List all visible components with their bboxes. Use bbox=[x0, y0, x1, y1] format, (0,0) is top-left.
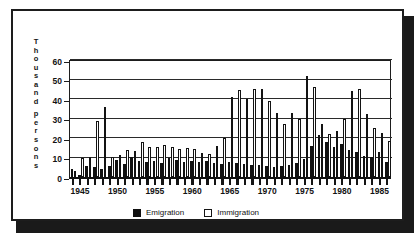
bar-immigration bbox=[373, 128, 376, 177]
bar-immigration bbox=[111, 157, 114, 177]
bar-immigration bbox=[74, 171, 77, 177]
bar-immigration bbox=[89, 157, 92, 177]
y-axis-tick-mark bbox=[64, 62, 69, 63]
x-axis-tick-mark bbox=[161, 179, 163, 185]
y-axis-tick-label: 30 bbox=[40, 115, 62, 125]
bar-immigration bbox=[171, 147, 174, 177]
bar-immigration bbox=[238, 90, 241, 177]
x-axis-tick-mark bbox=[349, 179, 351, 185]
bar-immigration bbox=[216, 146, 219, 177]
x-axis-tick-mark bbox=[214, 179, 216, 185]
y-axis-tick-mark bbox=[64, 81, 69, 82]
x-axis-tick-mark bbox=[102, 179, 104, 185]
y-axis-tick-label: 60 bbox=[40, 57, 62, 67]
bar-immigration bbox=[163, 145, 166, 177]
legend-item: Immigration bbox=[204, 208, 259, 217]
bar-immigration bbox=[231, 97, 234, 177]
bar-immigration bbox=[104, 107, 107, 177]
bar-immigration bbox=[178, 149, 181, 177]
x-axis-tick-mark bbox=[364, 179, 366, 185]
x-axis-tick-mark bbox=[251, 179, 253, 185]
x-axis-tick-mark bbox=[94, 179, 96, 185]
y-axis-tick-mark bbox=[64, 140, 69, 141]
x-axis-tick-mark bbox=[154, 179, 156, 185]
y-axis-title-char: d bbox=[34, 98, 39, 107]
x-axis-tick-mark bbox=[236, 179, 238, 185]
bar-immigration bbox=[253, 89, 256, 177]
legend-swatch-emigration bbox=[133, 209, 141, 217]
x-axis-tick-mark bbox=[109, 179, 111, 185]
bar-immigration bbox=[366, 114, 369, 177]
x-axis-tick-mark bbox=[221, 179, 223, 185]
x-axis-tick-label: 1985 bbox=[358, 186, 402, 196]
x-axis-tick-mark bbox=[266, 179, 268, 185]
y-axis-tick-label: 10 bbox=[40, 154, 62, 164]
bar-immigration bbox=[298, 119, 301, 178]
x-axis-tick-mark bbox=[184, 179, 186, 185]
bar-immigration bbox=[119, 155, 122, 177]
bar-immigration bbox=[313, 87, 316, 177]
bar-immigration bbox=[261, 89, 264, 177]
bar-immigration bbox=[343, 119, 346, 178]
x-axis-tick-mark bbox=[371, 179, 373, 185]
bar-immigration bbox=[223, 138, 226, 177]
x-axis-tick-labels: 194519501955196019651970197519801985 bbox=[53, 186, 413, 198]
x-axis-tick-mark bbox=[341, 179, 343, 185]
bar-immigration bbox=[381, 133, 384, 177]
bar-immigration bbox=[283, 124, 286, 177]
x-axis-tick-mark bbox=[379, 179, 381, 185]
x-axis-tick-mark bbox=[334, 179, 336, 185]
bar-immigration bbox=[306, 76, 309, 177]
x-axis-tick-mark bbox=[139, 179, 141, 185]
bar-immigration bbox=[351, 91, 354, 177]
x-axis-tick-mark bbox=[79, 179, 81, 185]
x-axis-tick-mark bbox=[206, 179, 208, 185]
legend-item: Emigration bbox=[133, 208, 184, 217]
x-axis-tick-mark bbox=[259, 179, 261, 185]
y-axis-tick-label: 0 bbox=[40, 174, 62, 184]
plot-area bbox=[69, 60, 391, 179]
bar-series-group bbox=[70, 60, 392, 177]
legend-swatch-immigration bbox=[204, 209, 212, 217]
bar-immigration bbox=[186, 148, 189, 177]
x-axis-tick-mark bbox=[132, 179, 134, 185]
bar-immigration bbox=[321, 124, 324, 177]
y-axis-tick-label: 20 bbox=[40, 135, 62, 145]
x-axis-tick-mark bbox=[124, 179, 126, 185]
bar-immigration bbox=[193, 149, 196, 177]
x-axis-tick-mark bbox=[72, 179, 74, 185]
x-axis-tick-mark bbox=[311, 179, 313, 185]
bar-immigration bbox=[156, 147, 159, 177]
x-axis-tick-mark bbox=[169, 179, 171, 185]
y-axis-tick-mark bbox=[64, 120, 69, 121]
legend-label: Emigration bbox=[146, 208, 184, 217]
legend-label: Immigration bbox=[217, 208, 259, 217]
bar-immigration bbox=[246, 99, 249, 177]
x-axis-tick-mark bbox=[191, 179, 193, 185]
x-axis-tick-mark bbox=[281, 179, 283, 185]
y-axis-tick-label: 40 bbox=[40, 96, 62, 106]
bar-immigration bbox=[328, 134, 331, 177]
x-axis-tick-mark bbox=[296, 179, 298, 185]
x-axis-tick-mark bbox=[87, 179, 89, 185]
bar-immigration bbox=[126, 150, 129, 177]
x-axis-tick-mark bbox=[326, 179, 328, 185]
y-axis-title-char: s bbox=[34, 162, 38, 171]
bar-immigration bbox=[358, 89, 361, 177]
x-axis-tick-mark bbox=[229, 179, 231, 185]
x-axis-tick-mark bbox=[274, 179, 276, 185]
x-axis-tick-mark bbox=[117, 179, 119, 185]
bar-immigration bbox=[134, 151, 137, 177]
x-axis-tick-mark bbox=[199, 179, 201, 185]
chart-figure: Thousandpersons 0102030405060 1945195019… bbox=[0, 0, 416, 235]
x-axis-tick-mark bbox=[289, 179, 291, 185]
bar-immigration bbox=[96, 121, 99, 177]
bar-immigration bbox=[81, 158, 84, 178]
bar-immigration bbox=[336, 131, 339, 177]
bar-immigration bbox=[201, 153, 204, 177]
y-axis-tick-mark bbox=[64, 101, 69, 102]
bar-immigration bbox=[388, 141, 391, 177]
x-axis-ticks bbox=[69, 179, 391, 186]
x-axis-tick-mark bbox=[319, 179, 321, 185]
x-axis-tick-mark bbox=[244, 179, 246, 185]
